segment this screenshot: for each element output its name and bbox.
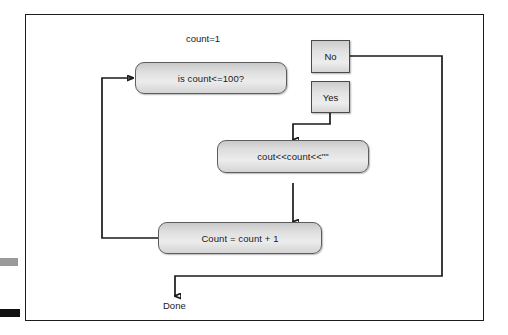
node-increment[interactable]: Count = count + 1	[158, 222, 322, 254]
node-print[interactable]: cout<<count<<""	[217, 140, 369, 173]
initialization-label: count=1	[186, 33, 220, 44]
screenshot-canvas: count=1 is count<=100? cout<<count<<"" C…	[0, 0, 508, 335]
terminal-label-done: Done	[163, 300, 186, 311]
left-margin-black-mark	[0, 309, 20, 317]
node-condition[interactable]: is count<=100?	[135, 62, 287, 94]
branch-chip-no[interactable]: No	[311, 40, 350, 73]
left-margin-gray-mark	[0, 258, 18, 266]
branch-chip-yes[interactable]: Yes	[311, 81, 350, 113]
